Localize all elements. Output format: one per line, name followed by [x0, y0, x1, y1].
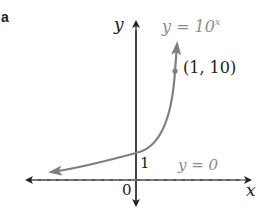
curve-equation-label: y = 10x [162, 18, 220, 35]
y-axis-label: y [114, 16, 124, 33]
exponential-curve [52, 71, 175, 172]
asymptote-label: y = 0 [178, 158, 218, 173]
curve-equation-lhs: y = 10 [162, 17, 215, 36]
point-label: (1, 10) [183, 60, 236, 76]
origin-label: 0 [122, 183, 132, 198]
point-1-10 [172, 68, 177, 73]
curve-equation-exponent: x [215, 17, 220, 27]
x-axis-label: x [246, 182, 256, 199]
exponential-graph [0, 0, 261, 210]
y-intercept-label: 1 [140, 156, 150, 171]
